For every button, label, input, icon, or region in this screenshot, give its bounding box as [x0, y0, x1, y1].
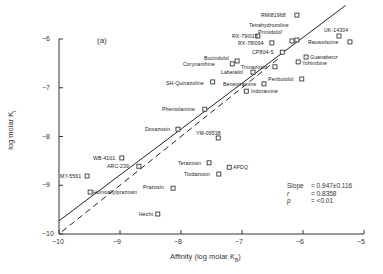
point-label: Homoallylprazosin: [93, 189, 137, 195]
y-axis-title: log molar Ki: [6, 111, 17, 150]
y-tick-label: −6: [42, 35, 50, 42]
data-point-square-icon: [337, 34, 341, 38]
data-point-square-icon: [235, 59, 239, 63]
point-label: UK-14304: [324, 27, 348, 33]
point-label: Trimazosin: [241, 64, 267, 70]
x-tick-label: −6: [296, 238, 304, 245]
data-point-square-icon: [88, 190, 92, 194]
point-label: Prazosin: [143, 184, 164, 190]
data-point-square-icon: [244, 89, 248, 93]
data-point-square-icon: [211, 80, 215, 84]
x-tick-label: −7: [235, 238, 243, 245]
point-label: RMI81968: [261, 12, 286, 18]
x-tick-label: −8: [174, 238, 182, 245]
x-ticks: [59, 230, 364, 234]
data-point-square-icon: [156, 212, 160, 216]
data-point-square-icon: [296, 60, 300, 64]
y-tick-label: −8: [42, 133, 50, 140]
point-label: Terazosin: [178, 160, 201, 166]
data-point-square-icon: [295, 38, 299, 42]
point-label: YM-09538: [196, 130, 221, 136]
point-label: Labetalol: [221, 69, 243, 75]
r-key: r: [287, 190, 311, 198]
point-label: Phentolamine: [162, 106, 195, 112]
data-point-square-icon: [262, 82, 266, 86]
point-label: Yohimbine: [302, 60, 327, 66]
r-value: = 0.8358: [311, 190, 336, 198]
point-label: CP804-S: [252, 49, 274, 55]
p-key: p: [287, 197, 311, 205]
y-tick-label: −10: [42, 230, 54, 237]
point-label: Penbutolol: [268, 76, 294, 82]
point-label: ARC-239: [107, 163, 129, 169]
point-label: Tetrahydrozoline: [249, 22, 289, 28]
data-point-square-icon: [230, 62, 234, 66]
point-label: Corynanthine: [183, 61, 215, 67]
data-point-square-icon: [348, 40, 352, 44]
p-value: = <0.01: [311, 197, 333, 205]
data-point-square-icon: [290, 39, 294, 43]
point-label: Benextramine: [223, 81, 256, 87]
point-label: MY-5561: [60, 173, 81, 179]
x-tick-label: −9: [113, 238, 121, 245]
point-label: Doxazosin: [145, 126, 170, 132]
x-tick-label: −5: [357, 238, 365, 245]
point-label: APDQ: [233, 164, 248, 170]
data-point-square-icon: [251, 70, 255, 74]
y-tick-label: −7: [42, 84, 50, 91]
data-point-square-icon: [280, 50, 284, 54]
data-point-square-icon: [203, 107, 207, 111]
point-label: WB-4101: [93, 155, 115, 161]
data-point-square-icon: [217, 172, 221, 176]
point-label: Hecht: [139, 211, 153, 217]
data-point-square-icon: [300, 77, 304, 81]
data-point-square-icon: [270, 41, 274, 45]
slope-value: = 0.947±0.116: [311, 182, 352, 190]
panel-label: (a): [97, 36, 107, 45]
data-point-square-icon: [176, 127, 180, 131]
data-point-square-icon: [171, 186, 175, 190]
data-point-square-icon: [85, 174, 89, 178]
point-label: RX-79I015: [232, 33, 258, 39]
x-axis-title: Affinity (log molar KB): [170, 252, 241, 263]
y-ticks: [59, 39, 63, 234]
data-point-square-icon: [227, 165, 231, 169]
data-point-square-icon: [295, 13, 299, 17]
data-point-square-icon: [304, 55, 308, 59]
data-point-square-icon: [120, 156, 124, 160]
data-point-square-icon: [207, 161, 211, 165]
slope-key: Slope: [287, 182, 311, 190]
point-label: Primidolol': [258, 29, 283, 35]
y-tick-label: −9: [42, 181, 50, 188]
x-tick-label: −10: [52, 238, 64, 245]
point-label: SH-Quinazoline: [166, 80, 204, 86]
stats-box: Slope= 0.947±0.116 r= 0.8358 p= <0.01: [287, 182, 352, 205]
data-point-square-icon: [216, 136, 220, 140]
data-point-square-icon: [137, 164, 141, 168]
point-label: Tiodazosin: [184, 171, 210, 177]
point-label: Indoramine: [251, 88, 278, 94]
point-label: Rauwolscine: [308, 39, 339, 45]
point-label: RX-78I094: [238, 40, 264, 46]
data-point-square-icon: [273, 65, 277, 69]
